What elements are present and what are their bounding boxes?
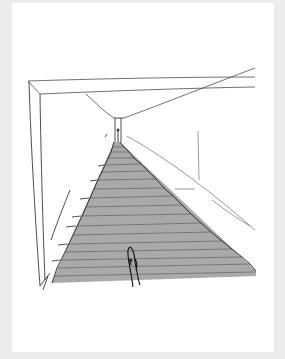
stair-floor <box>52 142 256 283</box>
distant-figure <box>117 129 119 142</box>
ceiling-lines <box>28 68 255 118</box>
corridor-sketch: Hand-drawn perspective sketch of a long … <box>0 0 285 359</box>
